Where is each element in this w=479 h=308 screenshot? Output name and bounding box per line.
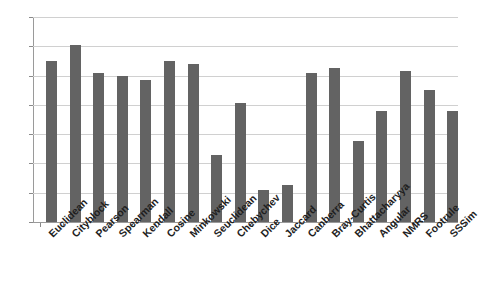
chart-title [0,0,464,1]
bar[interactable] [46,61,57,222]
bar[interactable] [164,61,175,222]
bar[interactable] [188,64,199,222]
bar[interactable] [306,73,317,222]
bar[interactable] [400,71,411,222]
x-tick-mark-0 [40,223,41,227]
bar[interactable] [424,90,435,222]
bar[interactable] [70,45,81,222]
bar[interactable] [117,76,128,222]
bar[interactable] [282,185,293,222]
